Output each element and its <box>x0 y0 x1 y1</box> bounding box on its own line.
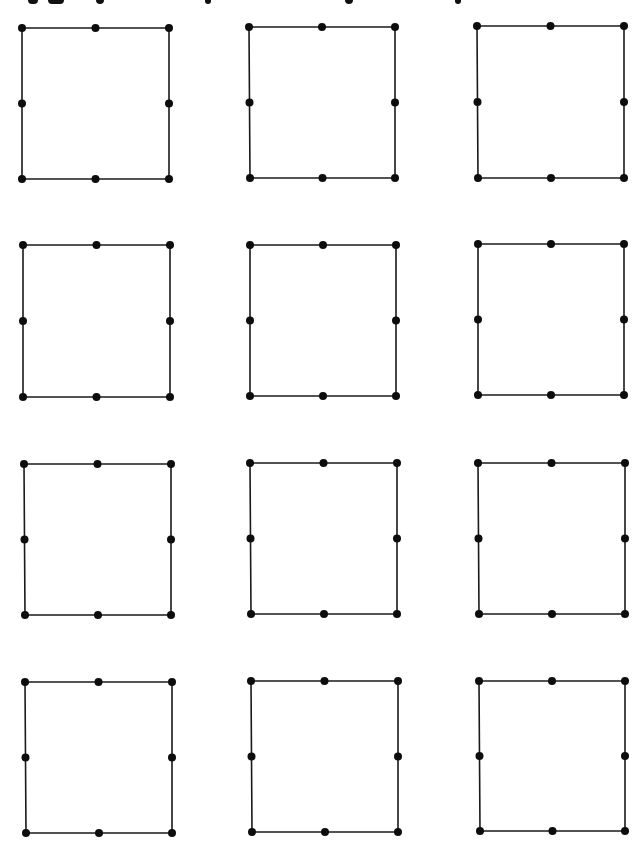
dot-top-right <box>393 459 401 467</box>
dot-bottom-left <box>474 391 482 399</box>
dot-bottom-mid <box>94 611 102 619</box>
dot-top-mid <box>320 459 328 467</box>
square-r2-c1 <box>19 241 174 401</box>
dot-top-left <box>247 677 255 685</box>
dot-bottom-right <box>166 393 174 401</box>
dot-bottom-mid <box>92 175 100 183</box>
square-r4-c2 <box>247 677 402 836</box>
dot-left-mid <box>18 100 26 108</box>
dot-top-left <box>474 459 482 467</box>
dot-left-mid <box>247 535 255 543</box>
dot-bottom-right <box>392 392 400 400</box>
square-r4-c1 <box>21 678 176 837</box>
dot-top-mid <box>318 23 326 31</box>
dot-bottom-mid <box>95 829 103 837</box>
dot-top-mid <box>547 240 555 248</box>
dot-bottom-mid <box>321 828 329 836</box>
dot-bottom-right <box>394 828 402 836</box>
dot-bottom-left <box>476 827 484 835</box>
dot-right-mid <box>168 754 176 762</box>
dot-top-right <box>391 23 399 31</box>
square-outline <box>251 681 398 832</box>
square-r4-c3 <box>475 677 629 835</box>
square-outline <box>250 463 397 614</box>
dot-left-mid <box>246 99 254 107</box>
worksheet-page <box>0 0 641 848</box>
dot-bottom-mid <box>547 174 555 182</box>
dot-top-left <box>245 23 253 31</box>
dot-top-mid <box>548 459 556 467</box>
dot-top-left <box>473 22 481 30</box>
square-r1-c1 <box>18 24 173 183</box>
dot-right-mid <box>166 317 174 325</box>
dot-bottom-right <box>168 829 176 837</box>
dot-top-mid <box>93 241 101 249</box>
dot-bottom-mid <box>548 610 556 618</box>
dot-top-mid <box>547 22 555 30</box>
dot-top-right <box>165 24 173 32</box>
square-r3-c2 <box>246 459 401 618</box>
dot-bottom-right <box>167 611 175 619</box>
dot-left-mid <box>474 98 482 106</box>
dot-bottom-left <box>19 393 27 401</box>
dot-bottom-left <box>21 611 29 619</box>
dot-top-left <box>246 459 254 467</box>
dot-right-mid <box>620 98 628 106</box>
square-r2-c2 <box>246 241 400 400</box>
dot-top-left <box>20 460 28 468</box>
dot-top-mid <box>95 678 103 686</box>
dot-top-left <box>474 240 482 248</box>
square-r2-c3 <box>474 240 628 399</box>
dot-top-right <box>394 677 402 685</box>
dot-bottom-right <box>620 174 628 182</box>
dot-top-left <box>475 677 483 685</box>
square-outline <box>478 463 625 614</box>
square-r1-c2 <box>245 23 399 182</box>
dot-left-mid <box>21 536 29 544</box>
dot-top-mid <box>92 24 100 32</box>
dot-right-mid <box>392 317 400 325</box>
dot-top-left <box>246 241 254 249</box>
square-outline <box>24 464 171 615</box>
dot-bottom-mid <box>319 174 327 182</box>
dot-bottom-right <box>165 175 173 183</box>
square-outline <box>249 27 395 178</box>
dot-left-mid <box>475 535 483 543</box>
dot-left-mid <box>19 317 27 325</box>
dot-bottom-left <box>475 610 483 618</box>
dot-bottom-right <box>621 610 629 618</box>
dot-bottom-mid <box>93 393 101 401</box>
dot-top-left <box>18 24 26 32</box>
dot-right-mid <box>165 100 173 108</box>
dot-bottom-left <box>248 828 256 836</box>
dot-bottom-right <box>393 610 401 618</box>
dot-bottom-right <box>620 391 628 399</box>
dot-top-right <box>620 240 628 248</box>
dot-top-mid <box>94 460 102 468</box>
dot-bottom-left <box>474 174 482 182</box>
dot-bottom-mid <box>320 610 328 618</box>
square-outline <box>478 244 624 395</box>
dot-top-left <box>19 241 27 249</box>
square-outline <box>477 26 624 178</box>
dot-top-right <box>392 241 400 249</box>
square-r3-c3 <box>474 459 629 618</box>
dot-top-left <box>21 678 29 686</box>
dot-top-mid <box>548 677 556 685</box>
dot-bottom-mid <box>549 827 557 835</box>
square-outline <box>25 682 172 833</box>
dot-top-right <box>168 678 176 686</box>
dot-right-mid <box>394 753 402 761</box>
dot-bottom-mid <box>547 391 555 399</box>
dot-right-mid <box>621 752 629 760</box>
dot-left-mid <box>474 316 482 324</box>
dot-bottom-left <box>22 829 30 837</box>
square-outline <box>479 681 625 831</box>
dot-bottom-left <box>18 175 26 183</box>
dot-bottom-right <box>621 827 629 835</box>
dot-right-mid <box>391 99 399 107</box>
dot-right-mid <box>393 535 401 543</box>
dot-left-mid <box>22 754 30 762</box>
dot-top-right <box>167 460 175 468</box>
dot-top-right <box>166 241 174 249</box>
